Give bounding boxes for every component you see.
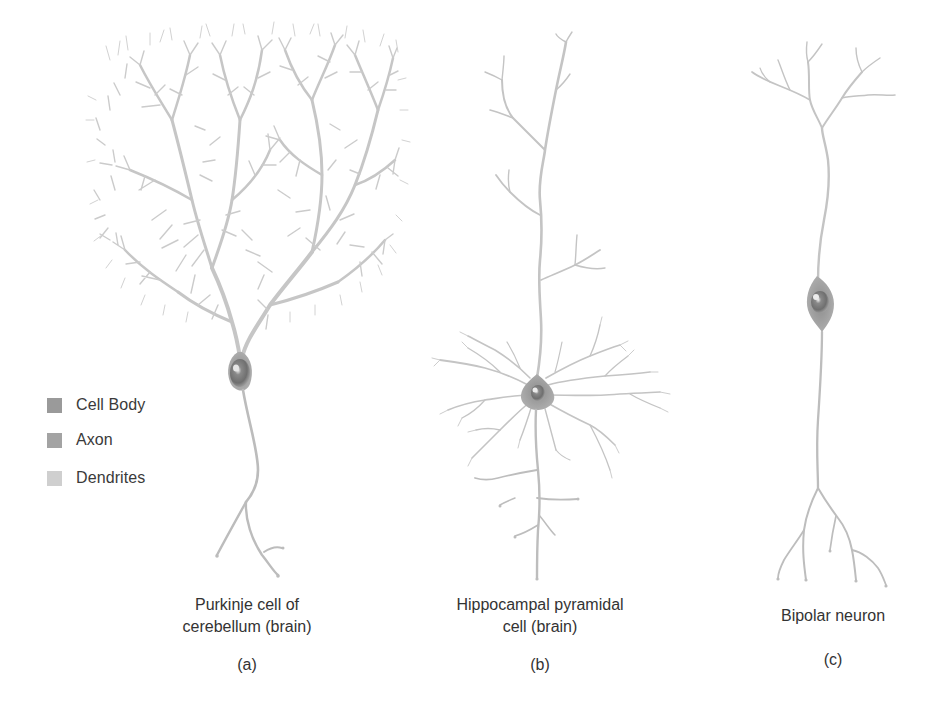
caption-line-1: Hippocampal pyramidal xyxy=(456,596,623,613)
panel-letter-c: (c) xyxy=(781,649,885,671)
bipolar-axon xyxy=(776,332,887,588)
hippocampal-pyramidal-cell xyxy=(432,32,670,581)
legend-label: Axon xyxy=(76,431,113,449)
legend-item-axon: Axon xyxy=(47,430,145,450)
pyramidal-dendrites xyxy=(432,32,670,478)
caption-hippocampal: Hippocampal pyramidal cell (brain) (b) xyxy=(456,594,623,676)
caption-purkinje: Purkinje cell of cerebellum (brain) (a) xyxy=(183,594,312,676)
caption-bipolar: Bipolar neuron (c) xyxy=(781,605,885,671)
dendrites-swatch xyxy=(47,471,62,486)
bipolar-dendrites xyxy=(752,42,895,282)
pyramidal-cell-body xyxy=(521,374,554,410)
purkinje-cell-body xyxy=(228,352,252,391)
purkinje-dendrite-tree xyxy=(86,22,410,358)
caption-line-1: Bipolar neuron xyxy=(781,607,885,624)
bipolar-cell-body xyxy=(807,276,834,332)
purkinje-axon xyxy=(215,390,284,578)
axon-swatch xyxy=(47,433,62,448)
bipolar-neuron xyxy=(752,42,895,588)
legend-label: Dendrites xyxy=(76,469,145,487)
legend-label: Cell Body xyxy=(76,396,145,414)
legend-item-dendrites: Dendrites xyxy=(47,468,145,488)
panel-letter-a: (a) xyxy=(183,654,312,676)
pyramidal-axon xyxy=(475,410,580,581)
cell-body-swatch xyxy=(47,398,62,413)
panel-letter-b: (b) xyxy=(456,654,623,676)
caption-line-2: cerebellum (brain) xyxy=(183,618,312,635)
caption-line-1: Purkinje cell of xyxy=(195,596,299,613)
caption-line-2: cell (brain) xyxy=(503,618,578,635)
legend-item-cell-body: Cell Body xyxy=(47,395,145,415)
legend: Cell Body Axon Dendrites xyxy=(47,395,145,503)
